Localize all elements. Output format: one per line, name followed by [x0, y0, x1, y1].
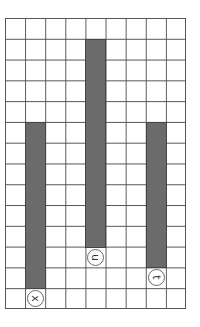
bar-2-label: u: [87, 249, 104, 266]
bar-2: [85, 39, 106, 248]
bar-1: [25, 122, 46, 289]
bar-3: [146, 122, 167, 268]
bar-1-label: x: [27, 290, 44, 307]
bar-3-label-text: t: [151, 275, 162, 279]
bar-3-label: t: [148, 269, 165, 286]
bar-2-label-text: u: [90, 254, 101, 261]
bar-1-label-text: x: [30, 295, 41, 302]
